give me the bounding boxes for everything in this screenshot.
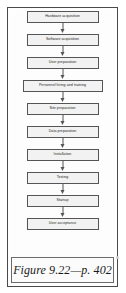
flow-connector-arrow-9 — [60, 207, 65, 217]
flow-step-label: Hardware acquisition — [45, 15, 80, 19]
flow-step-testing[interactable]: Testing — [27, 172, 99, 184]
arrow-head-icon — [61, 144, 65, 148]
arrow-head-icon — [61, 167, 65, 171]
flow-connector-arrow-6 — [60, 138, 65, 148]
flow-step-software-acquisition[interactable]: Software acquisition — [27, 34, 99, 46]
flow-step-user-preparation[interactable]: User preparation — [27, 57, 99, 69]
flow-connector-arrow-3 — [60, 69, 65, 79]
flow-step-label: Personnel hiring and training — [39, 84, 86, 88]
arrow-head-icon — [61, 29, 65, 33]
flow-step-personnel-hiring-and-training[interactable]: Personnel hiring and training — [23, 80, 103, 92]
flow-step-data-preparation[interactable]: Data preparation — [27, 126, 99, 138]
flow-step-installation[interactable]: Installation — [27, 149, 99, 161]
flow-step-startup[interactable]: Startup — [27, 195, 99, 207]
flow-step-hardware-acquisition[interactable]: Hardware acquisition — [27, 11, 99, 23]
flow-step-label: Site preparation — [49, 107, 75, 111]
arrow-head-icon — [61, 190, 65, 194]
flow-step-label: User acceptance — [49, 222, 77, 226]
flow-step-label: Software acquisition — [46, 38, 79, 42]
flow-step-label: Data preparation — [49, 130, 77, 134]
arrow-head-icon — [61, 98, 65, 102]
flow-connector-arrow-8 — [60, 184, 65, 194]
figure-caption: Figure 9.22—p. 402 — [13, 263, 112, 278]
arrow-head-icon — [61, 52, 65, 56]
arrow-head-icon — [61, 75, 65, 79]
flow-connector-arrow-7 — [60, 161, 65, 171]
flow-connector-arrow-4 — [60, 92, 65, 102]
flow-step-label: Startup — [57, 199, 69, 203]
flowchart: Hardware acquisition Software acquisitio… — [11, 11, 114, 254]
selection-handle-dot[interactable] — [116, 256, 119, 259]
flow-step-user-acceptance[interactable]: User acceptance — [27, 218, 99, 230]
flow-connector-arrow-1 — [60, 23, 65, 33]
arrow-head-icon — [61, 213, 65, 217]
figure-caption-cell: Figure 9.22—p. 402 — [11, 257, 114, 283]
flow-step-label: Installation — [54, 153, 72, 157]
flow-step-label: User preparation — [49, 61, 77, 65]
arrow-head-icon — [61, 121, 65, 125]
slide-canvas: Hardware acquisition Software acquisitio… — [0, 0, 126, 293]
flow-connector-arrow-2 — [60, 46, 65, 56]
flow-step-site-preparation[interactable]: Site preparation — [27, 103, 99, 115]
figure-frame: Hardware acquisition Software acquisitio… — [7, 7, 118, 287]
flow-step-label: Testing — [57, 176, 69, 180]
flow-connector-arrow-5 — [60, 115, 65, 125]
